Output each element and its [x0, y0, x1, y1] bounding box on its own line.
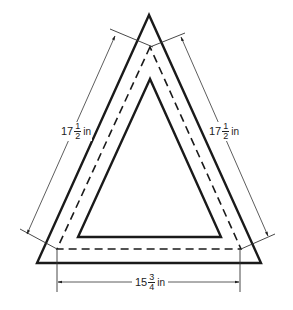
left-dim-fraction: 1 2 [74, 122, 81, 141]
right-dim-whole: 17 [209, 126, 221, 137]
triangle-diagram [0, 0, 293, 310]
right-dim-fraction: 1 2 [222, 122, 229, 141]
bottom-dimension-label: 15 3 4 in [132, 273, 168, 292]
bottom-dim-fraction: 3 4 [148, 273, 155, 292]
left-dim-unit: in [83, 127, 91, 137]
left-dim-whole: 17 [61, 126, 73, 137]
bottom-dim-whole: 15 [135, 277, 147, 288]
right-dimension-label: 17 1 2 in [208, 122, 240, 141]
left-dimension-label: 17 1 2 in [60, 122, 92, 141]
bottom-dim-unit: in [157, 278, 165, 288]
right-dim-unit: in [231, 127, 239, 137]
